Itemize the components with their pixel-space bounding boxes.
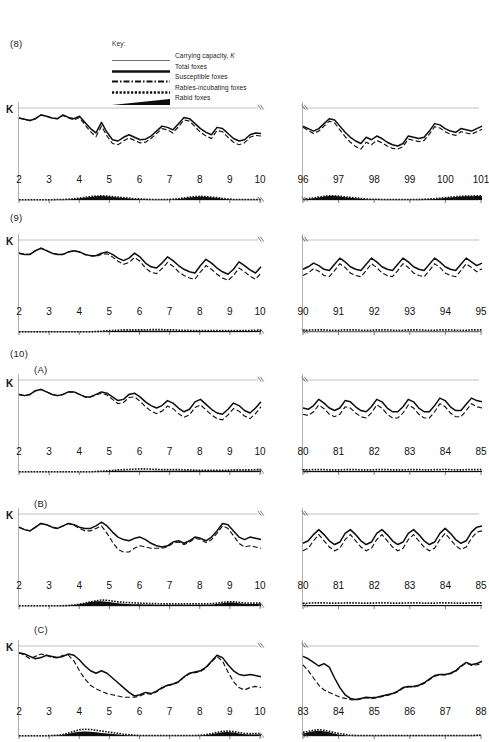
legend-item-total-foxes: Total foxes [112,61,207,72]
x-tick-label: 5 [107,446,113,457]
x-tick-label: 2 [16,306,22,317]
x-tick-label: 98 [369,174,380,185]
plot-panel-8-left [18,100,266,206]
y-axis-k-label: K [6,236,13,247]
panel-number-label: (10) [10,348,28,359]
axis-break-icon [258,197,264,202]
x-tick-label: 99 [404,174,415,185]
panel-number-label: (9) [10,212,23,223]
x-tick-label: 7 [167,706,173,717]
x-tick-label: 5 [107,580,113,591]
series-rabies-incubating-foxes [303,603,482,604]
x-axis-ticks-panel-10-c-right: 838485868788 [302,706,487,719]
x-tick-label: 3 [46,174,52,185]
x-tick-label: 5 [107,706,113,717]
x-tick-label: 2 [16,446,22,457]
x-axis-ticks-panel-10-b-left: 2345678910 [18,580,266,593]
x-tick-label: 8 [197,174,203,185]
x-tick-label: 10 [254,580,265,591]
x-tick-label: 10 [254,706,265,717]
x-tick-label: 87 [440,706,451,717]
legend-swatch-rabies-incubating-foxes [112,83,170,92]
series-total-foxes [19,522,261,547]
x-tick-label: 90 [297,306,308,317]
x-axis-ticks-panel-10-c-left: 2345678910 [18,706,266,719]
x-tick-label: 82 [369,446,380,457]
axis-break-icon [258,511,264,516]
x-tick-label: 9 [227,706,233,717]
x-tick-label: 7 [167,446,173,457]
x-tick-label: 10 [254,446,265,457]
x-tick-label: 9 [227,580,233,591]
plot-panel-8-right [302,100,487,206]
legend-title: Key: [112,40,126,47]
x-tick-label: 9 [227,446,233,457]
legend-label-total-foxes: Total foxes [175,62,207,71]
x-tick-label: 95 [475,306,486,317]
x-tick-label: 6 [137,706,143,717]
legend-swatch-carrying-capacity [112,51,170,60]
axis-break-icon [258,237,264,242]
x-tick-label: 84 [440,446,451,457]
series-rabid-foxes [303,196,482,200]
x-axis-ticks-panel-9-right: 909192939495 [302,306,487,319]
x-tick-label: 88 [475,706,486,717]
x-tick-label: 83 [404,580,415,591]
x-axis-ticks-panel-8-right: 96979899100101 [302,174,487,187]
x-tick-label: 4 [76,306,82,317]
x-axis-ticks-panel-9-left: 2345678910 [18,306,266,319]
panel-number-label: (8) [10,38,23,49]
x-tick-label: 81 [333,446,344,457]
x-tick-label: 7 [167,580,173,591]
series-total-foxes [303,398,482,412]
series-total-foxes [19,115,261,141]
x-tick-label: 3 [46,706,52,717]
axis-break-icon [258,105,264,110]
x-tick-label: 100 [437,174,454,185]
legend-swatch-susceptible-foxes [112,72,170,81]
x-tick-label: 85 [475,580,486,591]
y-axis-k-label: K [6,104,13,115]
legend: Key: Carrying capacity, KTotal foxesSusc… [112,40,272,92]
x-tick-label: 80 [297,580,308,591]
x-tick-label: 94 [440,306,451,317]
plot-panel-9-left [18,232,266,338]
x-tick-label: 3 [46,580,52,591]
x-tick-label: 83 [404,446,415,457]
x-tick-label: 3 [46,446,52,457]
series-rabies-incubating-foxes [19,196,261,200]
x-tick-label: 7 [167,174,173,185]
plot-panel-10-a-right [302,372,487,478]
legend-label-susceptible-foxes: Susceptible foxes [175,72,228,81]
x-tick-label: 8 [197,580,203,591]
x-tick-label: 6 [137,580,143,591]
x-tick-label: 84 [333,706,344,717]
x-tick-label: 8 [197,306,203,317]
x-tick-label: 4 [76,446,82,457]
plot-panel-10-b-right [302,506,487,612]
plot-panel-9-right [302,232,487,338]
x-tick-label: 84 [440,580,451,591]
x-axis-ticks-panel-8-left: 2345678910 [18,174,266,187]
legend-label-rabies-incubating-foxes: Rabies-incubating foxes [175,83,247,92]
x-tick-label: 4 [76,174,82,185]
x-tick-label: 82 [369,580,380,591]
plot-panel-10-a-left [18,372,266,478]
series-total-foxes [19,653,261,696]
series-susceptible-foxes [19,389,261,419]
legend-item-rabies-incubating-foxes: Rabies-incubating foxes [112,82,247,93]
x-tick-label: 4 [76,580,82,591]
x-tick-label: 101 [473,174,489,185]
y-axis-k-label: K [6,510,13,521]
series-susceptible-foxes [19,248,261,280]
x-tick-label: 81 [333,580,344,591]
x-tick-label: 97 [333,174,344,185]
x-tick-label: 5 [107,306,113,317]
x-tick-label: 4 [76,706,82,717]
x-tick-label: 5 [107,174,113,185]
series-total-foxes [303,119,482,146]
x-tick-label: 92 [369,306,380,317]
axis-break-icon [258,377,264,382]
legend-item-susceptible-foxes: Susceptible foxes [112,71,228,82]
